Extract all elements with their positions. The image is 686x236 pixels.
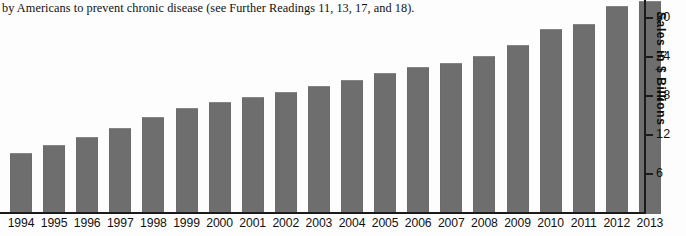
bar-1994 (10, 153, 32, 214)
bar-1999 (176, 108, 198, 214)
y-tick-12 (646, 134, 653, 136)
x-axis-line (0, 212, 645, 214)
x-tick-label-2005: 2005 (369, 216, 401, 230)
bar-2010 (540, 29, 562, 214)
bar-2003 (308, 86, 330, 215)
y-axis-title: Sales in $ Billions (654, 12, 668, 125)
x-tick-label-2002: 2002 (270, 216, 302, 230)
bar-2006 (407, 67, 429, 214)
bar-2001 (242, 97, 264, 214)
figure-page: by Americans to prevent chronic disease … (0, 0, 686, 236)
bar-1995 (43, 145, 65, 214)
x-tick-label-1998: 1998 (137, 216, 169, 230)
x-tick-label-2006: 2006 (402, 216, 434, 230)
x-tick-label-1999: 1999 (171, 216, 203, 230)
x-tick-label-2013: 2013 (634, 216, 666, 230)
bar-2012 (606, 6, 628, 214)
x-tick-label-1996: 1996 (71, 216, 103, 230)
x-tick-label-1995: 1995 (38, 216, 70, 230)
y-tick-18 (646, 95, 653, 97)
x-tick-label-2007: 2007 (435, 216, 467, 230)
x-tick-label-2004: 2004 (336, 216, 368, 230)
x-tick-label-2010: 2010 (535, 216, 567, 230)
x-tick-label-2011: 2011 (568, 216, 600, 230)
y-tick-label-6: 6 (656, 166, 663, 180)
bar-2007 (440, 63, 462, 214)
bar-chart-plot-area (0, 0, 645, 214)
y-tick-30 (646, 17, 653, 19)
bar-2005 (374, 73, 396, 214)
y-tick-6 (646, 173, 653, 175)
y-tick-label-12: 12 (656, 127, 670, 141)
bar-2011 (573, 24, 595, 214)
bar-2000 (209, 102, 231, 214)
y-tick-24 (646, 56, 653, 58)
x-tick-label-2000: 2000 (204, 216, 236, 230)
bar-2004 (341, 80, 363, 214)
bar-1997 (109, 128, 131, 214)
x-tick-label-2008: 2008 (468, 216, 500, 230)
bar-1998 (142, 117, 164, 214)
x-tick-label-2003: 2003 (303, 216, 335, 230)
x-tick-label-1997: 1997 (104, 216, 136, 230)
x-tick-label-2001: 2001 (237, 216, 269, 230)
bar-1996 (76, 137, 98, 214)
x-tick-label-2012: 2012 (601, 216, 633, 230)
bar-2002 (275, 92, 297, 214)
x-tick-label-2009: 2009 (502, 216, 534, 230)
x-tick-label-1994: 1994 (5, 216, 37, 230)
y-axis-line (644, 0, 646, 214)
bar-2008 (473, 56, 495, 214)
bar-2009 (507, 45, 529, 214)
